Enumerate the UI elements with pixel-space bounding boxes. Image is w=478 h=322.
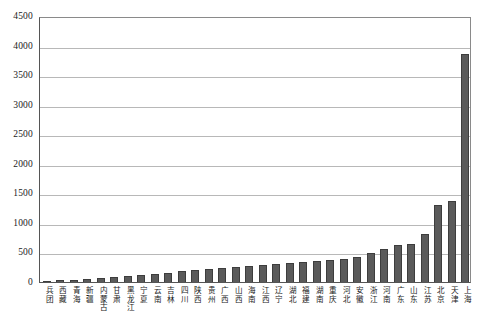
x-tick-label: 湖北 [282, 286, 295, 303]
x-tick-label: 山西 [228, 286, 241, 303]
x-tick-label: 北京 [431, 286, 444, 303]
bar [43, 281, 51, 282]
bar [313, 261, 321, 282]
x-tick-label: 甘肃 [107, 286, 120, 303]
x-tick-label: 重庆 [323, 286, 336, 303]
y-tick-label: 2500 [13, 130, 33, 140]
bar [245, 266, 253, 282]
bar [124, 276, 132, 282]
x-tick-label: 河南 [377, 286, 390, 303]
y-tick-label: 3000 [13, 101, 33, 111]
x-tick-label: 辽宁 [269, 286, 282, 303]
x-tick-label: 山东 [404, 286, 417, 303]
bar-chart: 050010001500200025003000350040004500 兵团西… [0, 0, 478, 322]
x-tick-label: 云南 [147, 286, 160, 303]
plot-area [39, 17, 471, 283]
bars-series [40, 18, 470, 282]
bar [97, 278, 105, 282]
x-tick-label: 黑龙江 [120, 286, 133, 312]
bar [299, 262, 307, 282]
y-tick-label: 500 [18, 249, 33, 259]
x-tick-label: 湖南 [309, 286, 322, 303]
x-tick-label: 宁夏 [134, 286, 147, 303]
bar [461, 54, 469, 282]
bar [448, 201, 456, 282]
y-tick-label: 1000 [13, 219, 33, 229]
bar [421, 234, 429, 282]
bar [151, 274, 159, 282]
bar [340, 259, 348, 282]
bar [70, 280, 78, 282]
bar [218, 268, 226, 282]
x-tick-label: 陕西 [188, 286, 201, 303]
x-tick-label: 海南 [242, 286, 255, 303]
x-tick-label: 天津 [444, 286, 457, 303]
y-tick-label: 1500 [13, 190, 33, 200]
y-tick-label: 2000 [13, 160, 33, 170]
y-axis: 050010001500200025003000350040004500 [0, 0, 36, 292]
y-tick-label: 0 [28, 278, 33, 288]
x-tick-label: 河北 [336, 286, 349, 303]
y-tick-label: 4000 [13, 42, 33, 52]
bar [110, 277, 118, 282]
x-tick-label: 江西 [255, 286, 268, 303]
x-tick-label: 西藏 [53, 286, 66, 303]
bar [353, 257, 361, 282]
x-axis: 兵团西藏青海新疆内蒙古甘肃黑龙江宁夏云南吉林四川陕西贵州广西山西海南江西辽宁湖北… [39, 286, 471, 322]
bar [407, 244, 415, 282]
x-tick-label: 广西 [215, 286, 228, 303]
bar [434, 205, 442, 282]
bar [205, 269, 213, 282]
x-tick-label: 兵团 [39, 286, 52, 303]
x-tick-label: 新疆 [80, 286, 93, 303]
y-tick-label: 3500 [13, 71, 33, 81]
y-tick-label: 4500 [13, 12, 33, 22]
x-tick-label: 上海 [458, 286, 471, 303]
bar [164, 273, 172, 282]
x-tick-label: 江苏 [417, 286, 430, 303]
bar [259, 265, 267, 282]
x-tick-label: 福建 [296, 286, 309, 303]
bar [232, 267, 240, 282]
x-tick-label: 广东 [390, 286, 403, 303]
x-tick-label: 贵州 [201, 286, 214, 303]
x-tick-label: 浙江 [363, 286, 376, 303]
bar [83, 279, 91, 282]
bar [178, 271, 186, 282]
x-tick-label: 吉林 [161, 286, 174, 303]
bar [272, 264, 280, 282]
bar [137, 275, 145, 282]
bar [380, 249, 388, 282]
x-tick-label: 青海 [66, 286, 79, 303]
bar [56, 280, 64, 282]
bar [286, 263, 294, 282]
bar [326, 260, 334, 282]
bar [394, 245, 402, 282]
x-tick-label: 内蒙古 [93, 286, 106, 312]
bar [191, 270, 199, 282]
bar [367, 253, 375, 282]
x-tick-label: 安徽 [350, 286, 363, 303]
x-tick-label: 四川 [174, 286, 187, 303]
